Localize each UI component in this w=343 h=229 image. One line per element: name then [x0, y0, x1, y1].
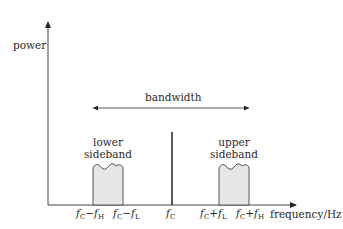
tick-subscript: C	[170, 213, 175, 221]
tick-fc-plus-fl: fC+fL	[200, 208, 227, 221]
tick-subscript: H	[258, 213, 264, 221]
upper-sideband-label-line1: upper	[214, 137, 254, 148]
tick-subscript: L	[222, 213, 227, 221]
tick-fc: fC	[166, 208, 175, 221]
tick-fc-plus-fh: fC+fH	[236, 208, 264, 221]
upper-sideband-label-line2: sideband	[209, 149, 259, 160]
x-axis-label: frequency/Hz	[270, 209, 342, 220]
lower-sideband-label-line1: lower	[88, 137, 128, 148]
tick-operator: +	[209, 207, 218, 219]
tick-subscript: H	[98, 213, 104, 221]
lower-sideband-label-line2: sideband	[83, 149, 133, 160]
lower-sideband-shape	[93, 164, 123, 205]
spectrum-diagram	[0, 0, 343, 229]
tick-fc-minus-fl: fC−fL	[113, 208, 140, 221]
tick-fc-minus-fh: fC−fH	[76, 208, 104, 221]
bandwidth-label: bandwidth	[145, 92, 199, 103]
tick-operator: −	[122, 207, 131, 219]
upper-sideband-shape	[219, 164, 249, 205]
tick-subscript: L	[135, 213, 140, 221]
tick-operator: −	[85, 207, 94, 219]
tick-operator: +	[245, 207, 254, 219]
y-axis-label: power	[13, 40, 46, 51]
